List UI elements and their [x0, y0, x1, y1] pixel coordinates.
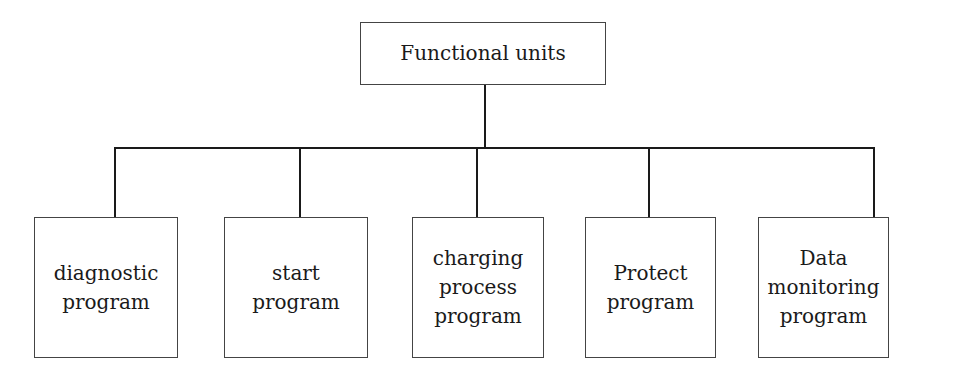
horizontal-bus-line: [114, 147, 875, 149]
child-stem-line: [299, 147, 301, 217]
child-stem-line: [476, 147, 478, 217]
child-node-label: diagnostic program: [54, 259, 159, 317]
child-node-label: Protect program: [607, 259, 695, 317]
child-node-label: Data monitoring program: [767, 244, 879, 331]
child-node-label: charging process program: [433, 244, 523, 331]
root-stem-line: [484, 85, 486, 149]
child-node-protect-program: Protect program: [585, 217, 716, 358]
child-stem-line: [114, 147, 116, 217]
child-node-diagnostic-program: diagnostic program: [34, 217, 178, 358]
child-node-charging-process-program: charging process program: [412, 217, 544, 358]
root-node-label: Functional units: [400, 39, 565, 68]
child-stem-line: [873, 147, 875, 217]
child-node-label: start program: [252, 259, 340, 317]
root-node-functional-units: Functional units: [360, 22, 606, 85]
child-node-start-program: start program: [224, 217, 368, 358]
child-node-data-monitoring-program: Data monitoring program: [758, 217, 889, 358]
child-stem-line: [648, 147, 650, 217]
functional-units-diagram: Functional units diagnostic program star…: [0, 0, 966, 380]
